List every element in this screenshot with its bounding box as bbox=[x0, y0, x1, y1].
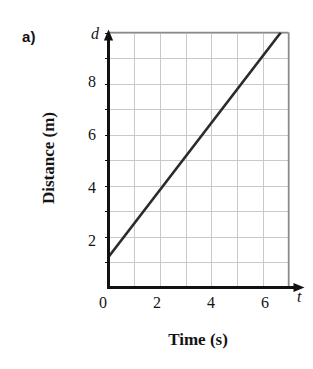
figure-container: a) Distance (m) Time (s) d t 8 6 4 2 0 2… bbox=[0, 0, 313, 369]
grid-lines bbox=[109, 33, 290, 288]
plot-area bbox=[0, 0, 313, 369]
